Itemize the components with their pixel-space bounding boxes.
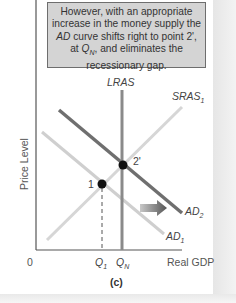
point-2-label: 2'	[133, 155, 141, 167]
ad2-label: AD2	[185, 205, 204, 219]
x-axis-label: Real GDP	[167, 256, 214, 268]
shift-arrow-icon	[140, 200, 167, 216]
explanation-callout: However, with an appropriate increase in…	[47, 2, 206, 68]
callout-line-2: increase in the money supply the	[48, 18, 205, 30]
point-1-label: 1	[88, 178, 94, 190]
y-axis-label: Price Level	[18, 134, 30, 194]
callout-line-3: AD curve shifts right to point 2',	[48, 31, 205, 43]
x-tick-q1: Q1	[95, 256, 107, 270]
figure-caption: (c)	[110, 276, 123, 288]
sras-label: SRAS1	[172, 90, 205, 104]
callout-line-1: However, with an appropriate	[48, 6, 205, 18]
equilibrium-point-2	[119, 161, 128, 170]
ad1-label: AD1	[166, 230, 185, 244]
callout-line-4: at QN, and eliminates the	[48, 43, 205, 59]
x-tick-qn: QN	[116, 256, 129, 270]
origin-label: 0	[27, 256, 33, 268]
callout-line-5: recessionary gap.	[48, 60, 205, 72]
sras-curve	[47, 107, 182, 240]
lras-label: LRAS	[107, 76, 134, 88]
equilibrium-point-1	[98, 180, 107, 189]
